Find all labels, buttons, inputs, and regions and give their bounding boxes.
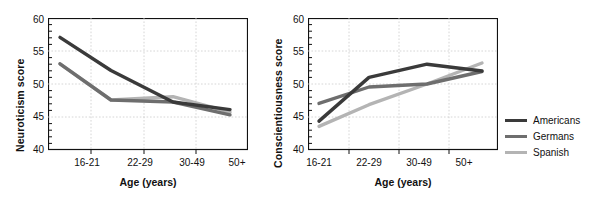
y-axis-tick: 50	[22, 79, 44, 90]
y-axis-tick: 50	[282, 79, 304, 90]
figure: Neuroticism score 60 55 50 45 40	[0, 0, 592, 216]
x-axis-label: Age (years)	[48, 176, 248, 188]
y-axis-label: Neuroticism score	[14, 59, 26, 152]
y-axis-tick: 40	[282, 144, 304, 155]
y-axis-tick: 55	[22, 46, 44, 57]
legend-label: Americans	[533, 115, 580, 126]
y-axis-tick: 55	[282, 46, 304, 57]
x-axis-tick: 22-29	[348, 157, 390, 168]
legend-item-germans[interactable]: Germans	[505, 128, 591, 144]
chart-panel-neuroticism: Neuroticism score 60 55 50 45 40	[0, 0, 270, 200]
y-axis-tick: 60	[282, 14, 304, 25]
legend-label: Spanish	[533, 147, 569, 158]
y-axis-tick: 40	[22, 144, 44, 155]
x-axis-tick: 50+	[221, 157, 253, 168]
x-axis-tick: 50+	[448, 157, 480, 168]
x-axis-tick: 16-21	[298, 157, 340, 168]
legend-swatch-icon	[505, 151, 527, 154]
y-axis-tick: 60	[22, 14, 44, 25]
x-axis-tick: 22-29	[119, 157, 161, 168]
plot-area-neuroticism	[48, 18, 248, 170]
x-axis-tick: 30-49	[171, 157, 213, 168]
x-axis-tick: 30-49	[398, 157, 440, 168]
legend-swatch-icon	[505, 135, 527, 138]
x-axis-tick: 16-21	[66, 157, 108, 168]
plot-area-conscientiousness	[308, 18, 498, 170]
y-axis-tick: 45	[22, 111, 44, 122]
legend-swatch-icon	[505, 119, 527, 122]
y-axis-tick: 45	[282, 111, 304, 122]
legend-item-americans[interactable]: Americans	[505, 112, 591, 128]
chart-legend: Americans Germans Spanish	[505, 112, 591, 160]
chart-panel-conscientiousness: Conscientiousness score 60 55 50 45 40	[262, 0, 512, 200]
legend-label: Germans	[533, 131, 574, 142]
legend-item-spanish[interactable]: Spanish	[505, 144, 591, 160]
x-axis-label: Age (years)	[308, 176, 498, 188]
